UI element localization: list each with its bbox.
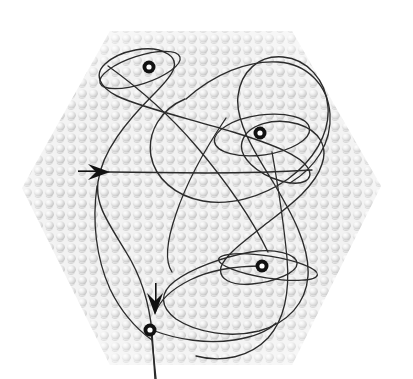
figure-canvas (0, 0, 413, 379)
node-marker-2[interactable] (254, 127, 267, 140)
node-marker-3[interactable] (256, 260, 269, 273)
node-marker-4[interactable] (144, 324, 157, 337)
node-marker-1[interactable] (143, 61, 156, 74)
figure-root (0, 0, 413, 379)
